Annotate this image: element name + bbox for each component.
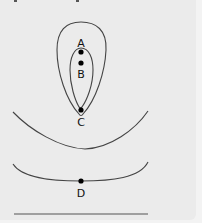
- point-c: [78, 107, 83, 112]
- cropped-text-fragment: [76, 0, 79, 2]
- point-a: [78, 49, 83, 54]
- lower-arc: [13, 162, 148, 181]
- diagram-canvas: A B C D: [0, 0, 202, 223]
- label-d: D: [77, 187, 85, 200]
- point-d: [78, 178, 83, 183]
- point-b: [78, 60, 83, 65]
- label-a: A: [77, 37, 85, 50]
- label-c: C: [77, 116, 85, 129]
- cropped-text-fragment: [14, 0, 17, 2]
- label-b: B: [77, 68, 85, 81]
